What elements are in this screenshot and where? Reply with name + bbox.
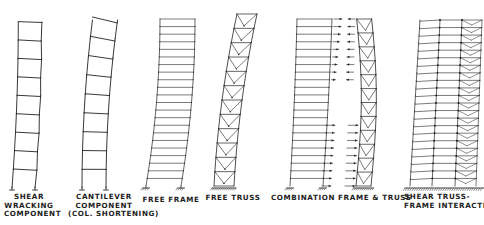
beam xyxy=(419,35,439,36)
arrow-head xyxy=(348,25,350,27)
column xyxy=(108,95,109,114)
beam xyxy=(415,103,436,104)
joint xyxy=(436,79,438,81)
brace xyxy=(368,61,375,72)
joint xyxy=(433,155,435,157)
brace xyxy=(468,118,479,123)
arrow-head xyxy=(347,56,349,58)
column xyxy=(229,43,232,57)
beam xyxy=(420,28,440,29)
brace xyxy=(358,33,367,44)
arrow-head xyxy=(347,48,349,50)
arrow-head xyxy=(336,56,338,58)
brace xyxy=(466,178,477,183)
support-hatch xyxy=(352,188,354,190)
column xyxy=(111,57,113,76)
arrow-head xyxy=(336,48,338,50)
beam xyxy=(419,43,439,44)
column xyxy=(107,113,108,132)
arrow-head xyxy=(339,25,341,27)
arrow-head xyxy=(347,71,349,73)
brace xyxy=(460,58,470,63)
joint xyxy=(238,54,239,55)
brace xyxy=(360,144,366,155)
truss-column xyxy=(375,130,376,144)
brace xyxy=(222,100,230,112)
arrow-head xyxy=(353,185,355,187)
brace xyxy=(459,103,469,108)
label-free-truss: FREE TRUSS xyxy=(205,194,261,203)
brace xyxy=(472,20,482,25)
column xyxy=(234,14,237,28)
brace xyxy=(467,133,478,138)
arrow-head xyxy=(354,162,356,164)
joint xyxy=(439,19,441,21)
column xyxy=(183,163,184,171)
column xyxy=(192,95,193,103)
beam xyxy=(90,36,115,41)
column xyxy=(88,39,90,58)
brace xyxy=(361,103,368,114)
arrow-head xyxy=(355,132,357,134)
beam xyxy=(411,171,433,172)
joint xyxy=(243,25,244,26)
brace xyxy=(469,88,480,93)
beam xyxy=(17,95,41,96)
column xyxy=(153,125,154,133)
brace xyxy=(369,103,377,114)
column xyxy=(90,20,92,39)
label-shear-truss-frame: SHEAR TRUSS- FRAME INTERACTION xyxy=(404,193,484,210)
brace xyxy=(462,28,472,33)
arrow-head xyxy=(337,41,339,43)
column xyxy=(16,114,17,132)
brace xyxy=(456,163,466,168)
beam xyxy=(417,65,438,66)
brace xyxy=(455,178,465,183)
brace xyxy=(456,156,466,161)
column xyxy=(110,76,112,95)
truss-column xyxy=(375,116,376,130)
column xyxy=(188,133,189,141)
column xyxy=(17,77,18,95)
brace xyxy=(367,130,375,141)
brace xyxy=(226,143,237,155)
column xyxy=(240,100,242,114)
brace xyxy=(456,171,466,176)
arrow-head xyxy=(331,147,333,149)
arrow-head xyxy=(355,147,357,149)
column xyxy=(191,103,192,111)
arrow-head xyxy=(354,154,356,156)
brace xyxy=(366,19,372,30)
arrow-head xyxy=(356,124,358,126)
brace xyxy=(467,148,478,153)
beam xyxy=(417,73,438,74)
column xyxy=(231,28,234,42)
arrow-head xyxy=(333,124,335,126)
joint xyxy=(241,39,242,40)
column xyxy=(148,163,149,171)
brace xyxy=(369,75,376,86)
beam xyxy=(13,169,37,170)
column xyxy=(242,86,244,100)
truss-column xyxy=(357,158,358,172)
brace xyxy=(361,116,368,127)
joint xyxy=(439,27,441,29)
column xyxy=(237,129,238,143)
column xyxy=(153,133,154,141)
column xyxy=(157,95,158,103)
brace xyxy=(367,33,373,44)
column xyxy=(235,157,236,171)
beam xyxy=(16,114,39,115)
column xyxy=(147,171,148,179)
beam xyxy=(418,50,438,51)
arrow-head xyxy=(332,139,334,141)
brace xyxy=(368,47,375,58)
joint xyxy=(435,102,437,104)
column xyxy=(146,178,147,186)
beam xyxy=(92,17,117,23)
joint xyxy=(434,125,436,127)
joint xyxy=(223,183,224,184)
column xyxy=(35,170,37,188)
arrow-head xyxy=(346,79,348,81)
joint xyxy=(437,64,439,66)
